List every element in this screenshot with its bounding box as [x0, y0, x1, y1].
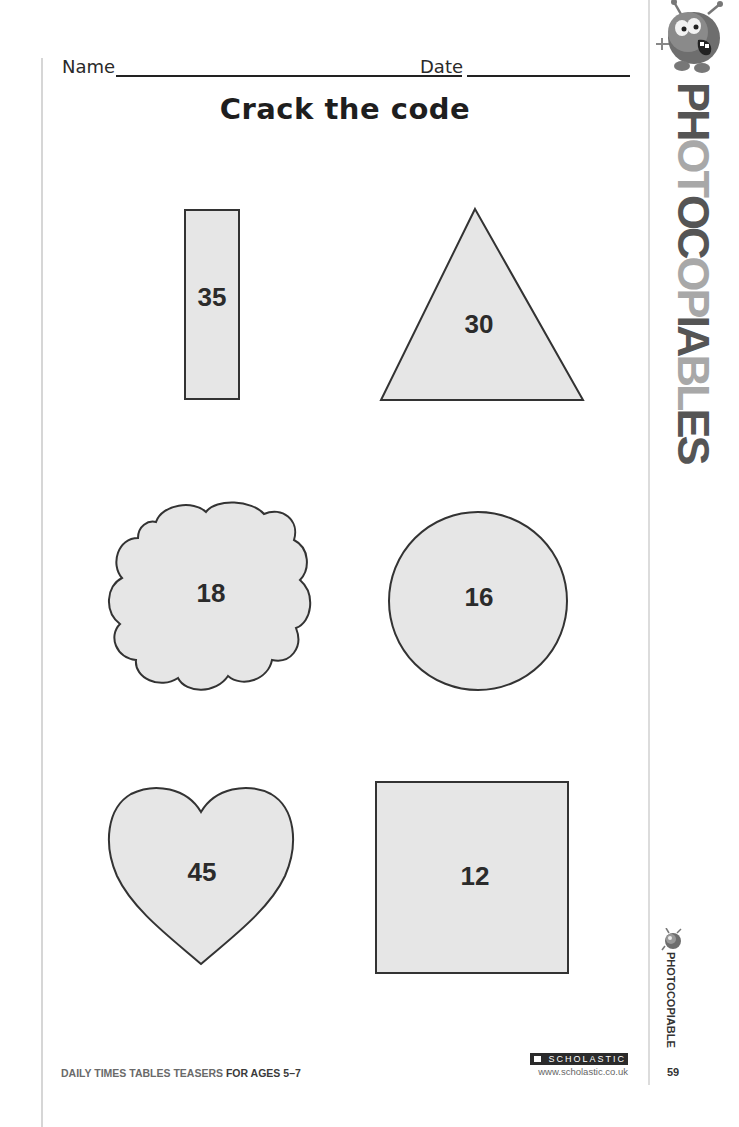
shape-value: 16 [465, 582, 494, 613]
square-shape: 12 [375, 781, 569, 974]
date-label: Date [420, 56, 463, 77]
triangle-shape: 30 [379, 207, 585, 402]
banner-letter: P [668, 289, 719, 316]
page-right-edge [648, 0, 650, 1085]
banner-letter: L [668, 384, 719, 409]
date-field[interactable] [467, 75, 630, 77]
banner-letter: P [668, 82, 719, 109]
banner-letter: O [668, 139, 719, 171]
banner-letter: I [668, 316, 719, 326]
book-icon [534, 1056, 541, 1062]
shape-value: 35 [198, 282, 227, 313]
page-number: 59 [667, 1066, 679, 1078]
monster-mascot-icon [652, 0, 732, 94]
banner-letter: O [668, 257, 719, 289]
banner-letter: B [668, 355, 719, 385]
shape-value: 30 [465, 309, 494, 340]
photocopiables-banner: PHOTOCOPIABLES [668, 82, 718, 463]
shape-value: 18 [197, 578, 226, 609]
rectangle-shape: 35 [184, 209, 240, 400]
banner-letter: A [668, 325, 719, 355]
series-ages: FOR AGES 5–7 [226, 1067, 301, 1079]
name-field[interactable] [116, 75, 462, 77]
shape-value: 12 [461, 861, 490, 892]
page-left-edge [41, 58, 43, 1127]
series-title: DAILY TIMES TABLES TEASERS FOR AGES 5–7 [61, 1067, 301, 1079]
banner-letter: H [668, 109, 719, 139]
banner-letter: E [668, 409, 719, 436]
circle-shape: 16 [387, 510, 569, 692]
banner-letter: T [668, 171, 719, 196]
scholastic-logo: SCHOLASTIC [530, 1053, 628, 1065]
heart-shape: 45 [105, 782, 297, 966]
publisher-name: SCHOLASTIC [548, 1054, 626, 1064]
page-title: Crack the code [0, 92, 690, 126]
series-name: DAILY TIMES TABLES TEASERS [61, 1067, 223, 1079]
shape-value: 45 [188, 857, 217, 888]
photocopiable-label: PHOTOCOPIABLE [665, 952, 677, 1048]
name-date-row: Name Date [62, 56, 632, 82]
publisher-url[interactable]: www.scholastic.co.uk [530, 1066, 628, 1077]
banner-letter: C [668, 227, 719, 257]
name-label: Name [62, 56, 115, 77]
cloud-shape: 18 [104, 498, 314, 693]
banner-letter: O [668, 195, 719, 227]
banner-letter: S [668, 436, 719, 463]
